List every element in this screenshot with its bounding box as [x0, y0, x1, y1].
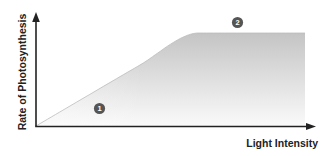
x-axis-label: Light Intensity: [246, 137, 318, 149]
photosynthesis-chart: Light Intensity Rate of Photosynthesis 1…: [0, 0, 329, 156]
y-axis-arrow-icon: [32, 12, 40, 22]
y-axis-label: Rate of Photosynthesis: [16, 13, 28, 130]
plot-area: [36, 33, 305, 126]
x-axis-arrow-icon: [306, 123, 316, 130]
marker-2-label: 2: [235, 18, 239, 27]
curve-area-highlight: [36, 33, 305, 126]
marker-1-label: 1: [97, 104, 101, 113]
marker-1: 1: [94, 103, 105, 114]
marker-2: 2: [232, 17, 243, 28]
